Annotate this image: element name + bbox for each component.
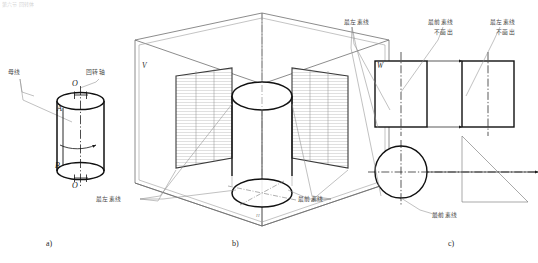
label-leftmost-generatrix-b: 最左素线 xyxy=(96,196,122,203)
part-a-cylinder-formation xyxy=(20,79,104,188)
technical-drawing-svg xyxy=(0,0,538,263)
h-plane-circle-projection xyxy=(228,179,296,207)
plane-label-h: H xyxy=(256,213,260,218)
rotation-direction-arrow xyxy=(60,145,96,149)
label-frontmost-generatrix-c-bottom: 最前素线 xyxy=(432,212,458,219)
point-label-O-top: O xyxy=(72,79,78,88)
caption-a: a) xyxy=(46,239,52,248)
label-frontmost-generatrix-b: 最前素线 xyxy=(298,196,324,203)
label-leftmost-generatrix-c-right: 最左素线 xyxy=(490,19,516,26)
part-c-three-views xyxy=(351,27,538,216)
point-label-A: A xyxy=(57,104,62,113)
label-frontmost-note-c: 不画出 xyxy=(434,29,453,36)
label-axis-of-revolution: 回转轴 xyxy=(86,69,105,76)
miter-45-line xyxy=(462,136,528,202)
label-leftmost-generatrix-c-left: 最左素线 xyxy=(344,19,370,26)
caption-c: c) xyxy=(448,239,454,248)
figure-canvas: 第六节 回转体 xyxy=(0,0,538,263)
point-label-O-bottom: O xyxy=(72,181,78,190)
label-generatrix: 母线 xyxy=(8,69,21,76)
caption-b: b) xyxy=(232,239,239,248)
plane-label-w: W xyxy=(377,61,383,70)
label-frontmost-generatrix-c: 最前素线 xyxy=(428,19,454,26)
label-leftmost-note-c: 不画出 xyxy=(496,29,515,36)
point-label-B: B xyxy=(55,161,60,170)
plane-label-v: V xyxy=(142,61,147,70)
